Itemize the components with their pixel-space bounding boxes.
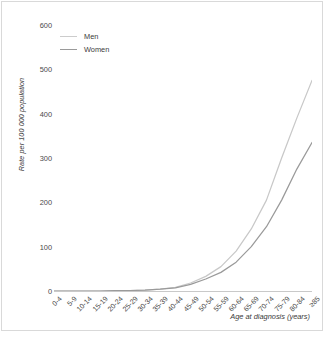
line-series-women xyxy=(54,142,312,291)
y-axis-tick-label: 400 xyxy=(8,109,52,118)
legend-label-men: Men xyxy=(84,32,98,41)
series-lines xyxy=(54,20,312,291)
x-axis-line xyxy=(54,291,312,292)
legend-item-women: Women xyxy=(60,43,109,56)
figure-panel: Rate per 100 000 population 010020030040… xyxy=(1,1,323,331)
x-axis-title: Age at diagnosis (years) xyxy=(230,312,310,321)
y-axis-tick-label: 200 xyxy=(8,198,52,207)
line-series-men xyxy=(54,80,312,291)
legend-item-men: Men xyxy=(60,30,109,43)
y-axis-tick-label: 300 xyxy=(8,154,52,163)
chart-legend: Men Women xyxy=(60,30,109,56)
plot-area xyxy=(54,20,312,291)
y-axis-tick-label: 600 xyxy=(8,21,52,30)
legend-swatch-women-icon xyxy=(60,49,77,50)
legend-swatch-men-icon xyxy=(60,36,77,37)
legend-label-women: Women xyxy=(84,45,109,54)
y-axis-tick-label: 100 xyxy=(8,242,52,251)
y-axis-tick-label: 500 xyxy=(8,65,52,74)
